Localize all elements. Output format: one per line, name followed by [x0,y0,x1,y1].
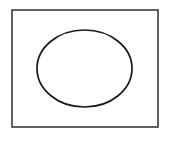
inner-ellipse-shape [37,30,132,107]
outer-rectangle-shape [12,10,158,127]
figure-drawing [0,0,174,142]
figure-canvas: Ellipse inscribed in rectangle [0,0,174,142]
